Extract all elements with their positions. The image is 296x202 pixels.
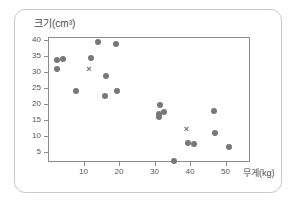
x-axis-label: 무게(kg) [243,166,275,179]
data-point [157,102,163,108]
y-tick-mark [44,56,48,57]
y-tick-mark [44,136,48,137]
data-point [171,158,177,164]
y-tick-mark [44,88,48,89]
x-tick-label: 10 [76,167,92,176]
x-tick-mark [84,162,85,166]
data-point [114,88,120,94]
data-point [211,108,217,114]
y-tick-label: 25 [23,83,41,92]
data-point [156,114,162,120]
y-tick-label: 10 [23,131,41,140]
plot-area [48,37,250,162]
data-point [95,39,101,45]
data-point [102,93,108,99]
data-point [54,66,60,72]
y-tick-mark [44,120,48,121]
y-tick-label: 40 [23,35,41,44]
y-tick-mark [44,40,48,41]
x-tick-mark [119,162,120,166]
data-point [191,141,197,147]
data-point [73,88,79,94]
y-tick-mark [44,72,48,73]
x-axis-label-text: 무게(kg) [243,168,275,178]
y-tick-label: 15 [23,115,41,124]
data-point [226,144,232,150]
data-point [161,109,167,115]
y-tick-mark [44,104,48,105]
data-point [103,73,109,79]
data-point [88,55,94,61]
data-point [60,56,66,62]
y-tick-label: 5 [23,147,41,156]
y-tick-label: 30 [23,67,41,76]
data-point [212,130,218,136]
scatter-chart: 크기(cm³) 무게(kg) 403530252015105 102030405… [0,0,296,202]
data-point-x-marker: × [84,64,93,73]
y-axis-label-text: 크기(cm³) [34,18,75,29]
y-axis-label: 크기(cm³) [34,15,75,30]
y-tick-mark [44,152,48,153]
x-tick-mark [190,162,191,166]
x-tick-label: 40 [182,167,198,176]
x-tick-mark [226,162,227,166]
x-tick-mark [155,162,156,166]
x-tick-label: 20 [111,167,127,176]
x-tick-label: 30 [147,167,163,176]
data-point [113,41,119,47]
y-tick-label: 20 [23,99,41,108]
x-tick-label: 50 [218,167,234,176]
data-point-x-marker: × [182,124,191,133]
y-tick-label: 35 [23,51,41,60]
